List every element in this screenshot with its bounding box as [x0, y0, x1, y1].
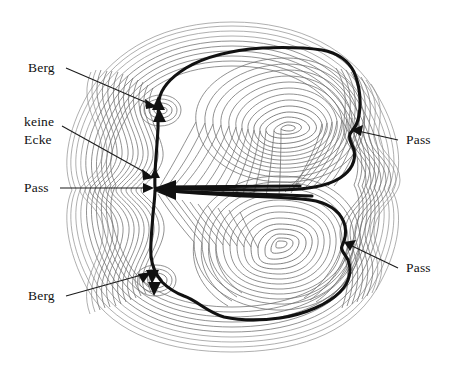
label-pass-right-bottom: Pass — [406, 260, 431, 275]
label-keine-ecke-line2: Ecke — [24, 132, 52, 147]
label-pass-right-top: Pass — [406, 132, 431, 147]
label-pass-left: Pass — [24, 180, 49, 195]
pass-inflow-line-upper — [162, 186, 300, 187]
contour-map-svg: Berg keine Ecke Pass Berg Pass Pass — [0, 0, 455, 370]
label-berg-top: Berg — [28, 60, 55, 75]
label-keine-ecke-line1: keine — [24, 114, 54, 129]
label-berg-bottom: Berg — [28, 288, 55, 303]
contour-map-figure: Berg keine Ecke Pass Berg Pass Pass — [0, 0, 455, 370]
